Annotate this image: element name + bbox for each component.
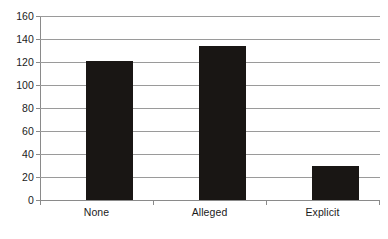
y-axis-label-60: 60 bbox=[0, 126, 34, 136]
y-axis-labels: 160 140 120 100 80 60 40 20 0 bbox=[0, 0, 34, 239]
y-axis-label-100: 100 bbox=[0, 80, 34, 90]
y-axis-label-0: 0 bbox=[0, 195, 34, 205]
x-axis-tick-1 bbox=[153, 200, 154, 205]
y-axis-label-40: 40 bbox=[0, 149, 34, 159]
y-axis-label-20: 20 bbox=[0, 172, 34, 182]
y-axis-label-120: 120 bbox=[0, 57, 34, 67]
y-axis-label-80: 80 bbox=[0, 103, 34, 113]
x-axis-tick-2 bbox=[266, 200, 267, 205]
bar-explicit bbox=[312, 166, 359, 201]
x-axis-label-alleged: Alleged bbox=[153, 206, 266, 218]
x-axis-label-none: None bbox=[40, 206, 153, 218]
bar-alleged bbox=[199, 46, 246, 200]
plot-area bbox=[40, 16, 380, 200]
y-axis-label-140: 140 bbox=[0, 34, 34, 44]
gridline-160 bbox=[40, 16, 380, 17]
y-axis-label-160: 160 bbox=[0, 11, 34, 21]
x-axis-tick-end bbox=[379, 200, 380, 205]
bar-none bbox=[86, 61, 133, 200]
gridline-140 bbox=[40, 39, 380, 40]
bar-chart: 160 140 120 100 80 60 40 20 0 bbox=[0, 0, 388, 239]
x-axis-label-explicit: Explicit bbox=[266, 206, 379, 218]
x-axis-line bbox=[40, 200, 380, 201]
x-axis-tick-start bbox=[40, 200, 41, 205]
